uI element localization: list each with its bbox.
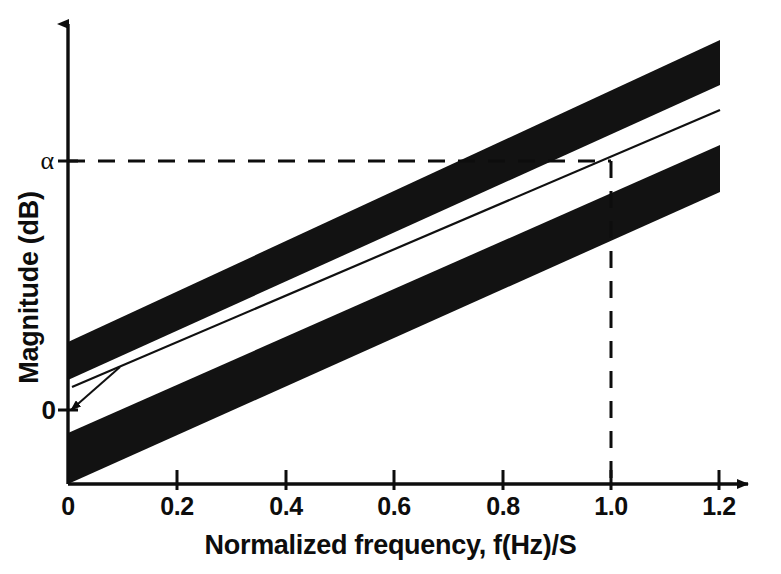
x-tick-label-0-2: 0.2: [160, 492, 193, 521]
x-axis-title: Normalized frequency, f(Hz)/S: [0, 530, 781, 561]
x-tick-label-1-2: 1.2: [702, 492, 735, 521]
x-tick-label-1-0: 1.0: [594, 492, 627, 521]
y-tick-label-alpha: α: [40, 146, 54, 176]
x-tick-label-0-6: 0.6: [377, 492, 410, 521]
nominal-response-line: [72, 110, 720, 387]
x-tick-label-0: 0: [61, 492, 74, 521]
figure-magnitude-vs-normalized-frequency: 0 0.2 0.4 0.6 0.8 1.0 1.2 α 0 Normalized…: [0, 0, 781, 574]
x-tick-label-0-4: 0.4: [269, 492, 302, 521]
chart-canvas: [0, 0, 781, 574]
x-tick-label-0-8: 0.8: [486, 492, 519, 521]
y-axis-title: Magnitude (dB): [14, 173, 45, 403]
